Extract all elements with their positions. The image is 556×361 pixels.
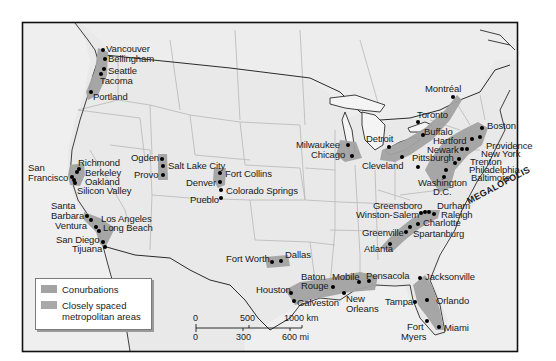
city-label: Tijuana xyxy=(72,244,102,254)
city-label: Myers xyxy=(401,332,426,342)
closely-spaced-swatch xyxy=(41,301,57,309)
legend-item-closely-spaced: Closely spaced metropolitan areas xyxy=(41,300,141,322)
city-label: Fort Worth xyxy=(226,254,270,264)
city-label: Detroit xyxy=(366,134,393,144)
city-label: Orlando xyxy=(436,296,469,306)
scale-km-1000: 1000 km xyxy=(284,313,319,323)
city-label: Mobile xyxy=(332,272,359,282)
city-label: Toronto xyxy=(417,110,448,120)
city-label: Denver xyxy=(186,178,216,188)
legend-label-conurbations: Conurbations xyxy=(62,284,119,295)
legend-item-conurbations: Conurbations xyxy=(41,284,119,295)
map-legend: Conurbations Closely spaced metropolitan… xyxy=(35,278,152,330)
city-label: Fort Collins xyxy=(225,169,272,179)
city-label: Cleveland xyxy=(362,161,403,171)
city-label: Salt Lake City xyxy=(168,161,225,171)
city-label: Montréal xyxy=(425,84,461,94)
city-label: Greenville xyxy=(362,228,404,238)
city-label: Spartanburg xyxy=(413,229,464,239)
scale-mi-600: 600 mi xyxy=(282,332,309,342)
scale-km-500: 500 xyxy=(240,313,255,323)
city-label: Pittsburgh xyxy=(412,153,454,163)
city-label: Pueblo xyxy=(190,195,219,205)
city-label: Bellingham xyxy=(108,54,154,64)
city-label: Long Beach xyxy=(103,223,153,233)
scale-mi-0: 0 xyxy=(193,332,198,342)
city-label: Tacoma xyxy=(100,76,133,86)
city-label: Miami xyxy=(444,323,469,333)
legend-label-closely-spaced: Closely spaced metropolitan areas xyxy=(62,300,141,322)
city-label: Charlotte xyxy=(423,218,461,228)
city-label: Jacksonville xyxy=(425,272,475,282)
city-label: Dallas xyxy=(285,250,311,260)
scale-mi-300: 300 xyxy=(236,332,251,342)
city-label: Ventura xyxy=(55,221,87,231)
city-label: D.C. xyxy=(433,187,452,197)
city-label: Houston xyxy=(256,285,291,295)
city-label: Winston-Salem xyxy=(356,210,419,220)
scale-km-0: 0 xyxy=(193,313,198,323)
city-label: Silicon Valley xyxy=(77,186,131,196)
legend-line-2: metropolitan areas xyxy=(62,311,141,322)
city-label: Portland xyxy=(93,92,128,102)
city-label: Francisco xyxy=(28,173,68,183)
city-label: Pensacola xyxy=(366,271,409,281)
city-label: Galveston xyxy=(297,298,339,308)
city-label: Tampa xyxy=(385,297,413,307)
city-label: Atlanta xyxy=(364,244,393,254)
city-label: Orleans xyxy=(346,304,379,314)
city-label: Provo xyxy=(134,170,158,180)
city-label: Rouge xyxy=(301,281,329,291)
city-label: Chicago xyxy=(311,150,345,160)
city-label: Ogden xyxy=(131,153,159,163)
city-label: Boston xyxy=(487,121,516,131)
legend-line-1: Closely spaced xyxy=(62,300,141,311)
conurbation-swatch xyxy=(41,285,57,293)
city-label: Colorado Springs xyxy=(226,186,298,196)
